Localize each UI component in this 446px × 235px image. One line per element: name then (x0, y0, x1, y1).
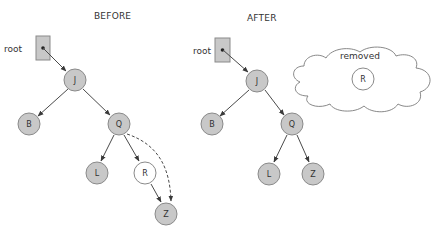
before-panel: BEFORE root J B Q L R (4, 11, 177, 225)
after-node-j: J (246, 70, 268, 92)
before-node-z: Z (155, 203, 177, 225)
after-title: AFTER (247, 13, 277, 23)
svg-text:L: L (95, 169, 100, 178)
svg-text:Z: Z (163, 210, 169, 219)
svg-text:Q: Q (116, 120, 122, 129)
before-node-r-removing: R (134, 162, 156, 184)
after-node-q: Q (281, 113, 303, 135)
after-edge-q-z (297, 135, 309, 162)
after-node-l: L (258, 163, 280, 185)
svg-text:R: R (360, 75, 366, 84)
removed-node-r: R (352, 68, 374, 90)
before-edge-r-z (151, 184, 161, 202)
after-edge-j-q (265, 90, 284, 115)
after-node-z: Z (302, 163, 324, 185)
before-root-label: root (4, 44, 23, 54)
before-edge-q-r (124, 135, 139, 161)
bst-deletion-diagram: BEFORE root J B Q L R (0, 0, 446, 235)
before-node-l: L (86, 162, 108, 184)
svg-text:J: J (73, 76, 76, 85)
svg-text:R: R (142, 169, 148, 178)
before-edge-q-l (101, 135, 114, 161)
svg-text:B: B (209, 120, 215, 129)
after-edge-j-b (220, 90, 249, 116)
before-node-j: J (64, 69, 86, 91)
svg-text:Z: Z (310, 170, 316, 179)
svg-text:L: L (267, 170, 272, 179)
before-title: BEFORE (94, 11, 131, 21)
before-node-q: Q (108, 113, 130, 135)
svg-text:B: B (26, 120, 32, 129)
after-node-b: B (201, 113, 223, 135)
before-edge-j-b (38, 89, 68, 116)
svg-text:J: J (255, 77, 258, 86)
before-edge-j-q (83, 89, 110, 115)
before-node-b: B (18, 113, 40, 135)
after-root-label: root (193, 46, 212, 56)
removed-cloud: removed R (294, 47, 430, 112)
after-edge-q-l (274, 135, 287, 162)
after-panel: AFTER root J B Q L Z (193, 13, 430, 185)
removed-label: removed (340, 51, 380, 61)
svg-text:Q: Q (289, 120, 295, 129)
